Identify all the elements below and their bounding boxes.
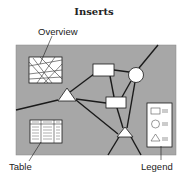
overview-inset — [29, 57, 62, 83]
rectangle-node-top — [93, 64, 114, 76]
table-inset — [30, 120, 62, 143]
inserts-diagram — [0, 0, 188, 180]
rectangle-node-mid — [106, 97, 126, 108]
legend-inset — [147, 103, 172, 147]
circle-node — [129, 68, 144, 83]
